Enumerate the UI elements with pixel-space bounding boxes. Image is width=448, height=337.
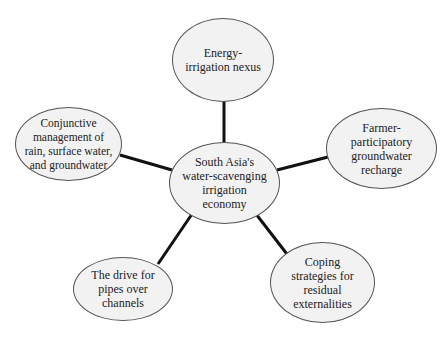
node-label: Farmer- participatory groundwater rechar… <box>351 121 412 177</box>
hub-spoke-diagram: Energy- irrigation nexus Farmer- partici… <box>0 0 448 337</box>
node-label: Energy- irrigation nexus <box>185 46 261 74</box>
node-label: The drive for pipes over channels <box>91 268 154 310</box>
link-bottom-left <box>158 214 192 264</box>
node-bottom-left-pipes-over-channels: The drive for pipes over channels <box>73 257 173 321</box>
node-left-conjunctive-management: Conjunctive management of rain, surface … <box>15 107 122 181</box>
node-label: Coping strategies for residual externali… <box>291 255 353 311</box>
link-bottom-right <box>256 214 290 258</box>
node-top-energy-irrigation: Energy- irrigation nexus <box>172 18 274 102</box>
node-label: Conjunctive management of rain, surface … <box>25 116 113 172</box>
node-center-irrigation-economy: South Asia's water-scavenging irrigation… <box>169 142 280 224</box>
node-bottom-right-coping-strategies: Coping strategies for residual externali… <box>270 242 375 323</box>
link-right <box>277 157 328 170</box>
link-left <box>120 155 172 170</box>
node-right-groundwater-recharge: Farmer- participatory groundwater rechar… <box>326 108 437 189</box>
center-label: South Asia's water-scavenging irrigation… <box>182 155 266 211</box>
